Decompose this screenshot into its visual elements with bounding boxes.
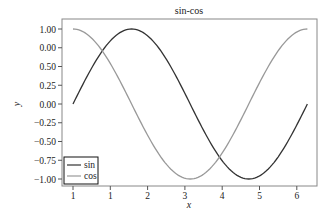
legend-label-sin: sin	[84, 160, 95, 170]
legend: sin cos	[64, 157, 98, 184]
y-tick-label: −0.75	[34, 156, 56, 166]
sin-cos-chart: sin-cos 1.000.000.500.250.00−0.25−0.50−0…	[0, 0, 336, 215]
y-axis: 1.000.000.500.250.00−0.25−0.50−0.75−1.00	[34, 25, 62, 185]
plot-series	[73, 29, 307, 179]
y-axis-label: y	[11, 101, 22, 107]
x-tick-label: 6	[294, 191, 299, 201]
x-axis-label: x	[186, 199, 192, 210]
legend-label-cos: cos	[84, 171, 97, 181]
y-tick-label: 0.00	[39, 43, 56, 53]
y-tick-label: 1.00	[39, 25, 56, 35]
y-tick-label: −0.50	[34, 137, 56, 147]
y-tick-label: 0.50	[39, 62, 56, 72]
chart-title: sin-cos	[175, 5, 203, 16]
y-tick-label: 0.25	[39, 81, 56, 91]
y-tick-label: −0.25	[34, 118, 56, 128]
y-tick-label: 0.00	[39, 100, 56, 110]
y-tick-label: −1.00	[34, 175, 56, 185]
x-tick-label: 5	[257, 191, 262, 201]
x-tick-label: 1	[71, 191, 76, 201]
x-axis: 1123456	[71, 186, 300, 201]
x-tick-label: 1	[108, 191, 113, 201]
series-line-sin	[73, 29, 307, 179]
x-tick-label: 4	[220, 191, 225, 201]
x-tick-label: 2	[145, 191, 150, 201]
